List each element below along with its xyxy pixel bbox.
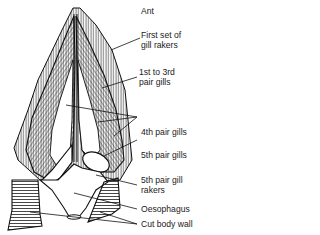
label-gills-5: 5th pair gills bbox=[141, 150, 187, 160]
label-gills-1-3: 1st to 3rd pair gills bbox=[139, 67, 175, 87]
anterior-label: Ant bbox=[141, 6, 154, 16]
label-oesophagus: Oesophagus bbox=[141, 204, 190, 214]
label-first-gill-rakers: First set of gill rakers bbox=[141, 30, 181, 50]
label-cut-body-wall: Cut body wall bbox=[141, 219, 193, 229]
label-gill-rakers-5: 5th pair gill rakers bbox=[141, 175, 183, 195]
label-gills-4: 4th pair gills bbox=[141, 127, 187, 137]
